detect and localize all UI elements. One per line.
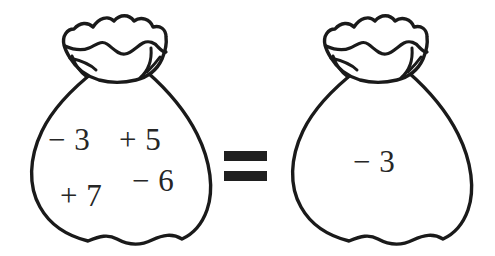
left-bag-term-pos5: + 5	[119, 124, 161, 155]
right-money-bag-graphic	[293, 16, 472, 244]
equals-bar-bottom	[224, 171, 267, 181]
figure-canvas: − 3 + 5 + 7 − 6 − 3	[0, 0, 495, 256]
equals-bar-top	[224, 151, 267, 161]
equals-sign-graphic	[224, 151, 267, 181]
left-bag-body	[32, 70, 211, 244]
left-bag-term-neg6: − 6	[132, 165, 174, 196]
left-bag-term-pos7: + 7	[60, 180, 102, 211]
left-bag-term-neg3: − 3	[48, 124, 90, 155]
right-bag-term-neg3: − 3	[353, 146, 395, 177]
